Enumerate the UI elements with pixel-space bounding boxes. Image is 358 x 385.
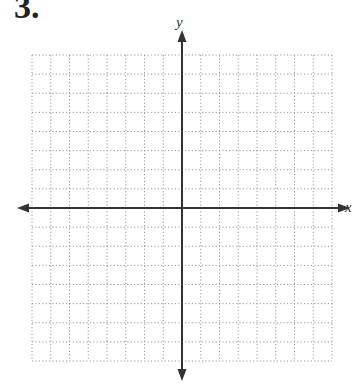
y-axis [178,30,187,381]
y-axis-down-arrow-icon [178,369,187,381]
y-axis-label: y [176,14,183,31]
coordinate-plane [0,0,358,385]
x-axis [17,204,350,213]
x-axis-label: x [345,199,352,216]
x-axis-left-arrow-icon [17,204,29,213]
y-axis-up-arrow-icon [178,30,187,42]
